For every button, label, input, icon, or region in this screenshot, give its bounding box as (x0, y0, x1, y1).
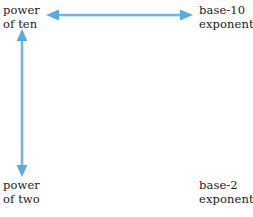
vertical-arrow-head-bottom (17, 165, 28, 177)
label-power-of-ten-line1: power (3, 4, 40, 18)
horizontal-arrow-shaft (57, 14, 182, 17)
label-base-2-exponent-line1: base-2 (199, 179, 253, 193)
label-power-of-ten-line2: of ten (3, 18, 40, 32)
label-power-of-ten: power of ten (3, 4, 40, 31)
label-base-2-exponent: base-2 exponent (199, 179, 253, 206)
vertical-double-arrow (17, 29, 28, 177)
label-base-10-exponent: base-10 exponent (199, 4, 253, 31)
exponent-relationship-diagram: power of ten base-10 exponent power of t… (0, 0, 253, 217)
horizontal-double-arrow (46, 10, 193, 21)
horizontal-arrow-head-left (46, 10, 59, 21)
label-power-of-two-line1: power (3, 179, 40, 193)
label-base-2-exponent-line2: exponent (199, 193, 253, 207)
label-power-of-two-line2: of two (3, 193, 40, 207)
horizontal-arrow-head-right (180, 10, 193, 21)
label-base-10-exponent-line2: exponent (199, 18, 253, 32)
label-base-10-exponent-line1: base-10 (199, 4, 253, 18)
vertical-arrow-shaft (21, 40, 24, 166)
label-power-of-two: power of two (3, 179, 40, 206)
